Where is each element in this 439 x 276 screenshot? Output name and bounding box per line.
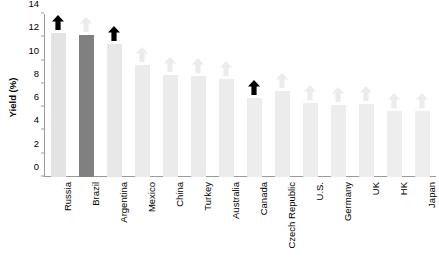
x-category-label: Russia	[62, 182, 73, 211]
y-tick-mark	[41, 13, 44, 14]
up-arrow-icon	[360, 86, 373, 101]
bar[interactable]	[331, 105, 346, 177]
y-tick-mark	[41, 59, 44, 60]
y-tick-mark	[41, 129, 44, 130]
plot-area: 02468101214	[44, 14, 436, 177]
up-arrow-icon	[108, 26, 121, 41]
bar[interactable]	[191, 76, 206, 177]
bar-column[interactable]	[219, 14, 234, 177]
bar[interactable]	[79, 35, 94, 177]
bar-column[interactable]	[331, 14, 346, 177]
x-category-label: Turkey	[202, 182, 213, 211]
y-tick-label: 14	[28, 0, 39, 9]
bar[interactable]	[359, 104, 374, 177]
x-category-label: Japan	[426, 182, 437, 208]
y-tick-label: 12	[28, 21, 39, 32]
up-arrow-icon	[52, 15, 65, 30]
bar-column[interactable]	[107, 14, 122, 177]
x-category-label: China	[174, 182, 185, 207]
up-arrow-icon	[304, 85, 317, 100]
bar-column[interactable]	[359, 14, 374, 177]
y-tick-label: 0	[34, 161, 39, 172]
y-tick-mark	[41, 106, 44, 107]
y-tick-mark	[41, 176, 44, 177]
bar[interactable]	[275, 91, 290, 177]
y-tick-label: 10	[28, 44, 39, 55]
bar[interactable]	[51, 33, 66, 177]
bar[interactable]	[247, 98, 262, 177]
x-category-label: Australia	[230, 182, 241, 219]
y-axis-title: Yield (%)	[7, 63, 18, 133]
bar[interactable]	[219, 79, 234, 177]
up-arrow-icon	[388, 93, 401, 108]
x-category-label: U.S.	[314, 182, 325, 200]
y-axis-line	[44, 14, 45, 177]
bar-column[interactable]	[79, 14, 94, 177]
bar[interactable]	[107, 44, 122, 177]
x-category-label: HK	[398, 182, 409, 195]
y-tick-mark	[41, 82, 44, 83]
x-category-label: Canada	[258, 182, 269, 215]
y-tick-label: 4	[34, 114, 39, 125]
x-category-label: UK	[370, 182, 381, 195]
bar-chart: Yield (%) 02468101214 RussiaBrazilArgent…	[0, 0, 439, 276]
bar-column[interactable]	[51, 14, 66, 177]
y-tick-label: 6	[34, 91, 39, 102]
up-arrow-icon	[164, 57, 177, 72]
bar-column[interactable]	[387, 14, 402, 177]
bar-column[interactable]	[303, 14, 318, 177]
bar-column[interactable]	[247, 14, 262, 177]
bar-column[interactable]	[415, 14, 430, 177]
bar[interactable]	[135, 65, 150, 177]
x-category-label: Czech Republic	[286, 182, 297, 249]
bar[interactable]	[387, 111, 402, 177]
bar-column[interactable]	[191, 14, 206, 177]
up-arrow-icon	[136, 47, 149, 62]
x-axis-line	[44, 176, 436, 177]
x-category-label: Mexico	[146, 182, 157, 212]
up-arrow-icon	[192, 58, 205, 73]
bar-column[interactable]	[163, 14, 178, 177]
up-arrow-icon	[80, 17, 93, 32]
x-category-label: Germany	[342, 182, 353, 221]
y-tick-label: 2	[34, 137, 39, 148]
up-arrow-icon	[248, 80, 261, 95]
y-tick-mark	[41, 36, 44, 37]
bar[interactable]	[163, 75, 178, 177]
x-category-label: Argentina	[118, 182, 129, 223]
x-category-label: Brazil	[90, 182, 101, 206]
up-arrow-icon	[276, 73, 289, 88]
up-arrow-icon	[332, 87, 345, 102]
bar[interactable]	[415, 111, 430, 177]
up-arrow-icon	[220, 61, 233, 76]
bar[interactable]	[303, 103, 318, 178]
up-arrow-icon	[416, 93, 429, 108]
y-tick-mark	[41, 152, 44, 153]
bar-column[interactable]	[135, 14, 150, 177]
bar-column[interactable]	[275, 14, 290, 177]
y-tick-label: 8	[34, 67, 39, 78]
